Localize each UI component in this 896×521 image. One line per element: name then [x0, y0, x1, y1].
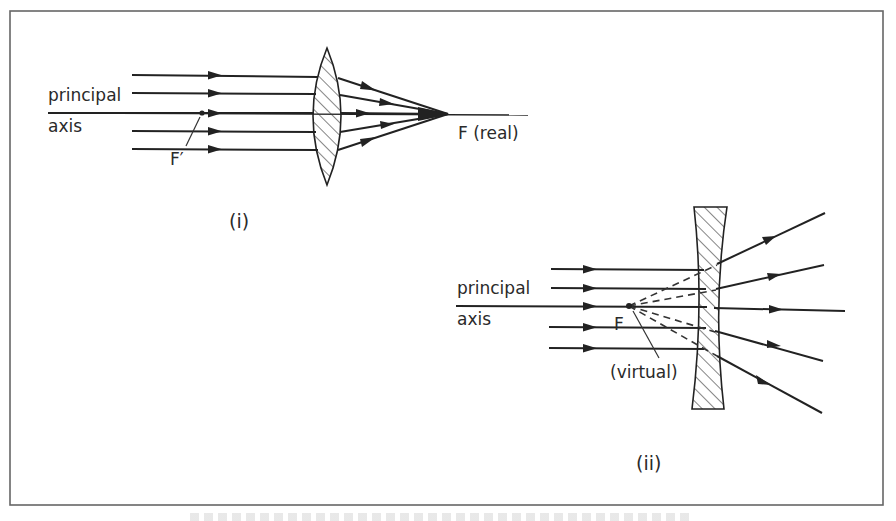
- panel-converging-lens: F′ principal axis F (real) (i): [48, 48, 528, 232]
- virtual-focus-label: F: [614, 314, 624, 334]
- lens-focus-figure: F′ principal axis F (real) (i): [0, 0, 896, 521]
- arrow-icon: [208, 71, 222, 80]
- diagram-canvas: F′ principal axis F (real) (i): [0, 0, 896, 521]
- arrow-icon: [769, 305, 783, 314]
- arrow-icon: [356, 109, 370, 118]
- arrow-icon: [208, 145, 222, 154]
- panel-diverging-lens: principal axis F (virtual) (ii): [456, 207, 845, 474]
- figure-frame: [10, 11, 883, 505]
- arrow-icon: [583, 323, 597, 332]
- convex-lens: [313, 48, 341, 185]
- arrow-icon: [360, 137, 376, 147]
- axis-label-i: axis: [48, 116, 82, 136]
- arrow-icon: [756, 375, 771, 385]
- arrow-icon: [767, 340, 781, 348]
- arrow-icon: [583, 284, 597, 293]
- principal-label-ii: principal: [457, 278, 530, 298]
- secondary-focus-point: [199, 110, 204, 115]
- virtual-focus-point: [626, 303, 632, 309]
- arrow-icon: [380, 121, 394, 129]
- panel-label-ii: (ii): [636, 452, 661, 474]
- virtual-focus-leader: [633, 311, 659, 358]
- real-focus-label: F (real): [458, 123, 519, 143]
- virtual-note-label: (virtual): [610, 362, 678, 382]
- arrow-icon: [208, 89, 222, 98]
- arrow-icon: [583, 302, 597, 311]
- secondary-focus-label: F′: [170, 149, 184, 169]
- refracted-rays-ii: [714, 213, 845, 413]
- arrow-icon: [360, 81, 376, 91]
- principal-label-i: principal: [48, 85, 121, 105]
- clipped-caption: [190, 513, 690, 521]
- panel-label-i: (i): [229, 210, 249, 232]
- arrow-icon: [583, 344, 597, 353]
- refracted-rays-i: [338, 78, 450, 150]
- incoming-rays-i: [48, 71, 318, 154]
- arrow-icon: [583, 265, 597, 274]
- arrow-icon: [208, 127, 222, 136]
- arrow-icon: [762, 236, 776, 245]
- arrow-icon: [208, 109, 222, 118]
- axis-label-ii: axis: [457, 309, 491, 329]
- arrow-icon: [767, 273, 781, 281]
